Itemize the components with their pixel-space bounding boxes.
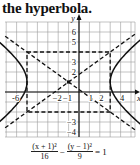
y-term-denominator: 9 (67, 152, 93, 161)
equals-one: = 1 (95, 147, 107, 157)
x-tick-label: -6 (12, 93, 19, 103)
x-term-numerator: (x + 1)² (31, 142, 57, 152)
y-tick-label: 2 (72, 67, 76, 77)
x-tick-label: −1 (63, 93, 72, 103)
x-tick-label: 2 (99, 93, 103, 103)
center-point (67, 80, 70, 83)
y-tick-label: 3 (72, 57, 76, 67)
hyperbola-graph: -6−2−11246532−3−4xy (0, 0, 140, 140)
hyperbola-equation: (x + 1)² 16 − (y − 1)² 9 = 1 (0, 142, 140, 161)
minus-sign: − (60, 147, 65, 157)
x-tick-label: 4 (120, 93, 125, 103)
x-axis-name: x (136, 93, 140, 103)
x-term-denominator: 16 (31, 152, 57, 161)
asymptote-positive-slope (5, 33, 136, 128)
y-term-numerator: (y − 1)² (67, 142, 93, 152)
y-tick-label: 6 (72, 27, 76, 37)
y-tick-label: −3 (67, 117, 76, 127)
x-tick-label: −2 (53, 93, 62, 103)
fraction-x-term: (x + 1)² 16 (31, 142, 57, 161)
x-tick-label: 1 (89, 93, 93, 103)
y-tick-label: 5 (72, 37, 76, 47)
y-axis-arrow-icon (77, 14, 82, 20)
y-axis-name: y (70, 14, 75, 23)
fraction-y-term: (y − 1)² 9 (67, 142, 93, 161)
y-tick-label: −4 (67, 127, 77, 137)
